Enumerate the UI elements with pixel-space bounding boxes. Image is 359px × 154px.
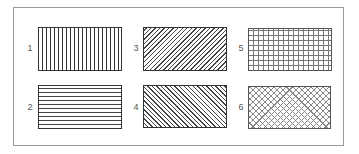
swatch-label-3: 3: [132, 44, 140, 53]
swatch-diagonal-back: [143, 85, 227, 128]
swatch-label-2: 2: [26, 103, 34, 112]
swatch-vertical-lines: [38, 27, 122, 71]
swatch-label-4: 4: [132, 103, 140, 112]
swatch-label-1: 1: [26, 44, 34, 53]
swatch-label-5: 5: [237, 44, 245, 53]
swatch-diagonal-forward: [143, 27, 227, 71]
swatch-square-grid: [248, 28, 332, 71]
swatch-horizontal-lines: [38, 85, 122, 129]
swatch-diagonal-crosshatch: [248, 86, 331, 129]
swatch-label-6: 6: [237, 103, 245, 112]
